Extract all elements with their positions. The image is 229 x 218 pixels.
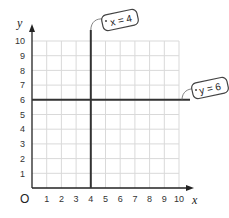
axes (29, 24, 194, 191)
x-axis-label: x (191, 193, 198, 207)
x-tick: 7 (132, 194, 137, 204)
y-tick: 6 (20, 95, 25, 105)
tag-x-equals-4: x = 4 (91, 8, 139, 31)
x-tick: 4 (88, 194, 93, 204)
y-tick: 10 (15, 36, 25, 46)
x-tick: 2 (59, 194, 64, 204)
grid (32, 41, 179, 188)
y-tick-labels: 1 2 3 4 5 6 7 8 9 10 (15, 36, 25, 178)
y-tick: 2 (20, 154, 25, 164)
x-tick: 5 (103, 194, 108, 204)
y-tick: 1 (20, 169, 25, 179)
x-tick: 3 (74, 194, 79, 204)
y-tick: 4 (20, 124, 25, 134)
y-tick: 3 (20, 139, 25, 149)
coordinate-graph: 1 2 3 4 5 6 7 8 9 10 1 2 3 4 5 6 7 8 9 1… (0, 0, 229, 218)
y-tick: 5 (20, 110, 25, 120)
origin-label: O (20, 192, 29, 206)
x-axis-arrow-icon (186, 185, 194, 191)
y-axis-arrow-icon (29, 24, 35, 32)
x-tick: 10 (174, 194, 184, 204)
y-tick: 9 (20, 51, 25, 61)
x-tick: 1 (44, 194, 49, 204)
x-tick-labels: 1 2 3 4 5 6 7 8 9 10 (44, 194, 184, 204)
x-tick: 9 (162, 194, 167, 204)
x-tick: 8 (147, 194, 152, 204)
y-axis-label: y (16, 16, 23, 30)
tag-y-equals-6: y = 6 (182, 76, 229, 99)
y-tick: 8 (20, 66, 25, 76)
y-tick: 7 (20, 80, 25, 90)
x-tick: 6 (118, 194, 123, 204)
